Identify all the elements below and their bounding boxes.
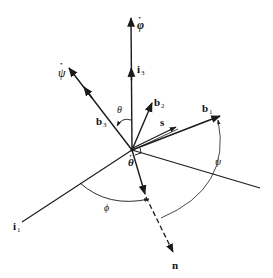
psi-dot-label: ψ • <box>58 60 66 80</box>
projection-line <box>132 150 260 188</box>
svg-text:1: 1 <box>17 226 21 234</box>
b3-label: b 3 <box>96 115 107 129</box>
phi-angle-arc <box>80 183 149 201</box>
phi-dot-label: φ • <box>137 14 144 32</box>
b1-axis <box>132 116 220 150</box>
phi-dot-axis <box>131 18 132 150</box>
phi-label: ϕ <box>104 202 109 213</box>
svg-text:i: i <box>137 63 140 75</box>
b3-arrowhead <box>84 87 92 98</box>
svg-text:3: 3 <box>103 121 107 129</box>
svg-text:s: s <box>160 116 165 128</box>
b1-label: b 1 <box>202 102 213 116</box>
svg-text:ψ: ψ <box>215 156 222 167</box>
i1-axis <box>22 150 132 222</box>
theta-angle-arc <box>117 119 131 126</box>
b2-label: b 2 <box>154 96 165 110</box>
svg-text:3: 3 <box>141 69 145 77</box>
theta-label: θ <box>117 104 122 115</box>
svg-text:ψ: ψ <box>58 66 66 80</box>
svg-text:ϕ: ϕ <box>104 202 109 213</box>
theta-dot-label: θ • <box>128 153 134 168</box>
svg-text:θ: θ <box>117 104 122 115</box>
i3-label: i 3 <box>137 63 145 77</box>
svg-text:1: 1 <box>209 108 213 116</box>
svg-text:i: i <box>13 220 16 232</box>
svg-text:n: n <box>172 259 178 271</box>
svg-text:b: b <box>96 115 102 127</box>
n-label: n <box>172 259 178 271</box>
psi-dot-axis <box>69 68 132 150</box>
origin-point <box>130 148 133 151</box>
svg-text:2: 2 <box>161 102 165 110</box>
svg-text:•: • <box>130 153 132 159</box>
euler-angle-diagram: φ • i 3 ψ • b 3 θ b 2 s b 1 ψ θ • ϕ i 1 <box>0 0 273 278</box>
svg-text:b: b <box>202 102 208 114</box>
psi-label: ψ <box>215 156 222 167</box>
svg-text:b: b <box>154 96 160 108</box>
i1-label: i 1 <box>13 220 21 234</box>
s-label: s <box>160 116 165 128</box>
